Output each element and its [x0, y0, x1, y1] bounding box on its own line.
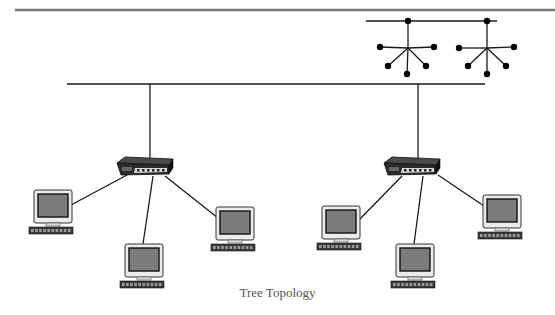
keyboard-key — [47, 229, 50, 232]
keyboard-key — [56, 229, 59, 232]
keyboard-key — [319, 245, 322, 248]
keyboard-key — [221, 246, 224, 249]
monitor-stand — [334, 239, 348, 242]
hub-to-computer-link — [414, 176, 423, 244]
star-node-icon — [377, 18, 437, 77]
keyboard-key — [64, 229, 67, 232]
node-dot-icon — [404, 71, 410, 77]
node-dot-icon — [405, 18, 411, 24]
diagram-caption: Tree Topology — [0, 285, 555, 301]
hub-to-computer-link — [357, 176, 402, 222]
keyboard-key — [250, 246, 253, 249]
monitor-stand — [495, 228, 509, 231]
desktop-computer-icon — [29, 190, 73, 234]
keyboard-key — [517, 234, 520, 237]
star-branch-line — [388, 48, 408, 66]
node-dot-icon — [511, 44, 517, 50]
keyboard-key — [501, 234, 504, 237]
keyboard-key — [43, 229, 46, 232]
node-dot-icon — [377, 44, 383, 50]
hub-to-computer-link — [71, 175, 127, 205]
monitor-stand — [46, 223, 60, 226]
node-dot-icon — [484, 71, 490, 77]
keyboard-key — [225, 246, 228, 249]
hub-port-icon — [137, 169, 140, 172]
monitor-screen — [38, 194, 68, 217]
hub-port-icon — [424, 169, 427, 172]
hub-port-icon — [162, 169, 165, 172]
keyboard-key — [513, 234, 516, 237]
keyboard-key — [60, 229, 63, 232]
keyboard-key — [242, 246, 245, 249]
hub-label-plate — [122, 167, 132, 171]
keyboard-key — [352, 245, 355, 248]
tree-topology-diagram — [0, 0, 555, 315]
keyboard-key — [31, 229, 34, 232]
hub-label-plate — [389, 167, 399, 171]
hub-to-computer-link — [165, 176, 218, 218]
monitor-screen — [487, 199, 517, 222]
keyboard-key — [348, 245, 351, 248]
keyboard-key — [238, 246, 241, 249]
hub-port-icon — [414, 169, 417, 172]
star-branch-line — [380, 47, 408, 48]
network-hub-icon — [384, 157, 440, 175]
hubs — [117, 157, 440, 175]
keyboard-key — [344, 245, 347, 248]
keyboard-key — [52, 229, 55, 232]
keyboard-key — [480, 234, 483, 237]
keyboard-key — [327, 245, 330, 248]
star-branch-line — [468, 48, 487, 66]
monitor-stand — [137, 277, 151, 280]
node-dot-icon — [431, 44, 437, 50]
desktop-computer-icon — [317, 206, 361, 250]
star-branch-line — [408, 48, 426, 66]
monitor-screen — [129, 248, 159, 271]
computers — [29, 190, 522, 288]
monitor-screen — [400, 248, 430, 271]
keyboard-key — [217, 246, 220, 249]
keyboard-key — [484, 234, 487, 237]
node-dot-icon — [385, 63, 391, 69]
hub-to-computer-link — [438, 175, 484, 206]
tree-legend-icon — [366, 18, 517, 77]
keyboard-key — [39, 229, 42, 232]
keyboard-key — [356, 245, 359, 248]
keyboard-key — [335, 245, 338, 248]
desktop-computer-icon — [211, 207, 255, 251]
desktop-computer-icon — [391, 244, 435, 288]
keyboard-key — [246, 246, 249, 249]
hub-port-icon — [142, 169, 145, 172]
hub-port-icon — [409, 169, 412, 172]
node-dot-icon — [456, 45, 462, 51]
keyboard-key — [323, 245, 326, 248]
node-dot-icon — [503, 63, 509, 69]
monitor-screen — [220, 211, 250, 234]
hub-to-computer-link — [143, 176, 153, 244]
keyboard-key — [331, 245, 334, 248]
keyboard-key — [505, 234, 508, 237]
hub-port-icon — [157, 169, 160, 172]
keyboard-key — [509, 234, 512, 237]
node-dot-icon — [423, 63, 429, 69]
hub-port-icon — [147, 169, 150, 172]
desktop-computer-icon — [478, 195, 522, 239]
monitor-stand — [228, 240, 242, 243]
monitor-screen — [326, 210, 356, 233]
star-branch-line — [487, 47, 514, 48]
keyboard-key — [35, 229, 38, 232]
node-dot-icon — [484, 18, 490, 24]
node-dot-icon — [465, 63, 471, 69]
desktop-computer-icon — [120, 244, 164, 288]
keyboard-key — [213, 246, 216, 249]
network-hub-icon — [117, 157, 173, 175]
keyboard-key — [496, 234, 499, 237]
keyboard-key — [234, 246, 237, 249]
keyboard-key — [488, 234, 491, 237]
star-branch-line — [408, 47, 434, 48]
hub-port-icon — [152, 169, 155, 172]
keyboard-key — [340, 245, 343, 248]
star-node-icon — [456, 18, 517, 77]
hub-port-icon — [419, 169, 422, 172]
monitor-stand — [408, 277, 422, 280]
